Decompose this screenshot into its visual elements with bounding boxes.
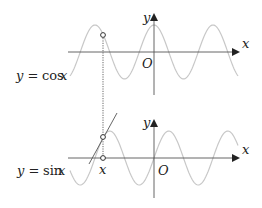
cos-y-axis-label: y (142, 10, 151, 25)
sin-point-on-curve (101, 135, 106, 140)
cos-label-prefix: y = (15, 68, 43, 83)
sin-x-axis-label: x (242, 142, 250, 157)
sin-y-axis-label: y (142, 115, 151, 130)
diagram-canvas: y x O y = cos x y x O x y = sin x (0, 0, 262, 208)
sin-point-on-axis (101, 156, 106, 161)
sin-label-prefix: y = (16, 163, 44, 178)
cos-origin-label: O (142, 56, 153, 71)
sin-origin-label: O (158, 163, 169, 178)
sin-plot: y x O x y = sin x (16, 113, 250, 198)
cos-curve-label: y = cos x (15, 68, 68, 83)
sin-curve-label: y = sin x (16, 163, 66, 178)
cos-x-axis-label: x (242, 36, 250, 51)
sin-label-var: x (58, 163, 66, 178)
sin-point-x-label: x (99, 162, 107, 177)
cos-label-var: x (60, 68, 68, 83)
cos-point-marker (101, 33, 106, 38)
cos-plot: y x O y = cos x (15, 10, 250, 95)
